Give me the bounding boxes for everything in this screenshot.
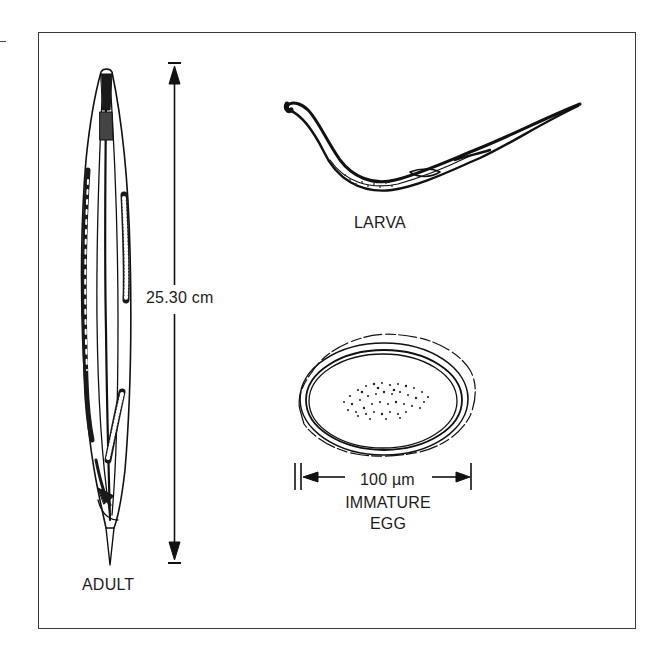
adult-length-dimension-line <box>168 63 181 563</box>
adult-stage-label: ADULT <box>82 576 134 594</box>
egg-width-label: 100 µm <box>358 471 417 489</box>
adult-worm-drawing <box>82 69 131 565</box>
egg-stage-label-line2: EGG <box>338 515 438 533</box>
larva-drawing <box>286 103 580 191</box>
larva-stage-label: LARVA <box>354 214 406 232</box>
egg-embryo-stipple <box>343 382 429 420</box>
egg-stage-label-line1: IMMATURE <box>338 494 438 512</box>
adult-length-label: 25.30 cm <box>145 287 214 309</box>
life-cycle-illustration <box>0 0 670 664</box>
egg-drawing <box>299 334 475 456</box>
